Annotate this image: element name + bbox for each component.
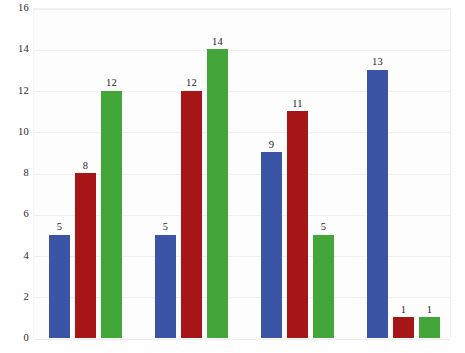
plot-area: 58125121491151311 [33, 8, 451, 338]
bar-green: 14 [207, 49, 228, 338]
bar-blue: 5 [155, 235, 176, 338]
bar-value-label: 1 [427, 305, 432, 316]
bar-green: 12 [101, 91, 122, 339]
bar-red: 1 [393, 317, 414, 338]
y-tick-label-16: 16 [3, 3, 29, 14]
gridline-0 [34, 339, 450, 340]
bar-rect [419, 317, 440, 338]
bar-rect [49, 235, 70, 338]
bar-rect [101, 91, 122, 339]
bar-rect [75, 173, 96, 338]
bar-green: 5 [313, 235, 334, 338]
y-tick-label-6: 6 [3, 209, 29, 220]
bar-green: 1 [419, 317, 440, 338]
bar-value-label: 11 [292, 99, 303, 110]
bar-rect [155, 235, 176, 338]
bar-blue: 13 [367, 70, 388, 338]
bar-value-label: 1 [401, 305, 406, 316]
bar-value-label: 14 [212, 37, 223, 48]
bar-value-label: 13 [372, 57, 383, 68]
y-tick-label-12: 12 [3, 85, 29, 96]
bar-value-label: 8 [83, 161, 88, 172]
bar-blue: 5 [49, 235, 70, 338]
bar-chart: 1614121086420 58125121491151311 [0, 0, 465, 353]
bar-value-label: 9 [269, 140, 274, 151]
y-tick-label-8: 8 [3, 168, 29, 179]
bar-rect [367, 70, 388, 338]
y-tick-label-14: 14 [3, 44, 29, 55]
bar-value-label: 5 [57, 222, 62, 233]
bar-value-label: 5 [321, 222, 326, 233]
y-tick-label-4: 4 [3, 250, 29, 261]
bar-rect [313, 235, 334, 338]
y-axis: 1614121086420 [0, 8, 29, 338]
bar-group: 9115 [261, 9, 334, 338]
bar-rect [261, 152, 282, 338]
bar-group: 51214 [155, 9, 228, 338]
bar-red: 11 [287, 111, 308, 338]
bar-rect [287, 111, 308, 338]
bar-value-label: 12 [186, 78, 197, 89]
bar-rect [207, 49, 228, 338]
bar-red: 12 [181, 91, 202, 339]
bar-group: 1311 [367, 9, 440, 338]
bar-value-label: 12 [106, 78, 117, 89]
bar-value-label: 5 [163, 222, 168, 233]
bar-blue: 9 [261, 152, 282, 338]
bar-group: 5812 [49, 9, 122, 338]
bar-rect [393, 317, 414, 338]
bar-red: 8 [75, 173, 96, 338]
bar-rect [181, 91, 202, 339]
y-tick-label-0: 0 [3, 333, 29, 344]
y-tick-label-10: 10 [3, 127, 29, 138]
y-tick-label-2: 2 [3, 292, 29, 303]
